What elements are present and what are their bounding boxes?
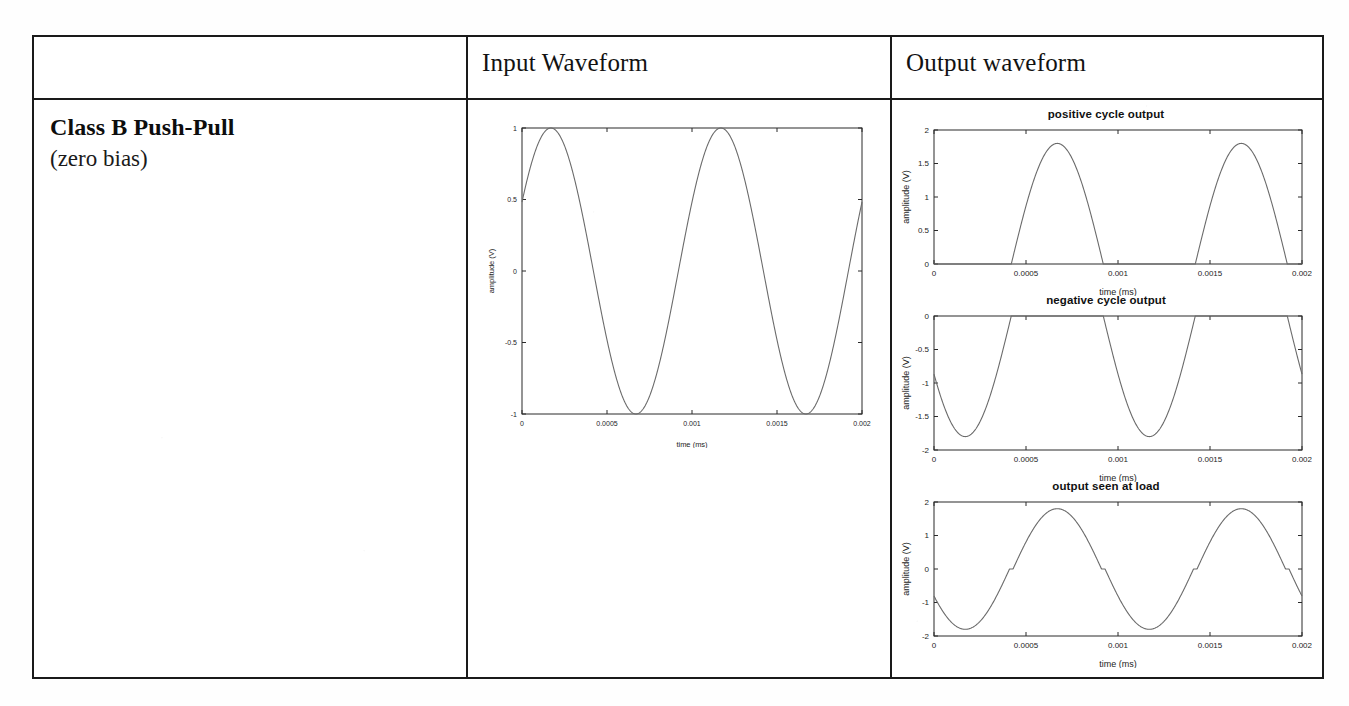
svg-text:0.002: 0.002 xyxy=(1292,455,1312,464)
svg-text:1: 1 xyxy=(925,193,930,202)
svg-text:0: 0 xyxy=(932,455,937,464)
svg-text:-0.5: -0.5 xyxy=(505,339,517,346)
input-plot-svg: 00.00050.0010.00150.002-1-0.500.51time (… xyxy=(484,118,874,448)
load-output-svg: 00.00050.0010.00150.002-2-1012time (ms)a… xyxy=(900,496,1312,668)
table-header-row: Input Waveform Output waveform xyxy=(33,36,1323,99)
input-waveform-cell: 00.00050.0010.00150.002-1-0.500.51time (… xyxy=(467,99,891,678)
svg-text:0.0005: 0.0005 xyxy=(1014,455,1039,464)
svg-text:2: 2 xyxy=(925,498,930,507)
svg-text:0.0015: 0.0015 xyxy=(766,420,788,427)
negative-cycle-title: negative cycle output xyxy=(900,294,1312,306)
amplifier-class-cell: Class B Push-Pull (zero bias) xyxy=(33,99,467,678)
svg-text:-1.5: -1.5 xyxy=(915,412,929,421)
positive-cycle-svg: 00.00050.0010.00150.00200.511.52time (ms… xyxy=(900,124,1312,296)
svg-text:1: 1 xyxy=(513,125,517,132)
svg-text:0.5: 0.5 xyxy=(918,226,930,235)
svg-text:0.002: 0.002 xyxy=(1292,269,1312,278)
svg-text:0.5: 0.5 xyxy=(507,196,517,203)
svg-text:0.001: 0.001 xyxy=(1108,269,1129,278)
svg-text:0: 0 xyxy=(925,565,930,574)
svg-text:0: 0 xyxy=(932,641,937,650)
svg-text:-1: -1 xyxy=(511,411,517,418)
load-output-title: output seen at load xyxy=(900,480,1312,492)
header-cell-blank xyxy=(33,36,467,99)
header-cell-output: Output waveform xyxy=(891,36,1323,99)
svg-text:amplitude (V): amplitude (V) xyxy=(487,248,496,293)
document-page: Input Waveform Output waveform Class B P… xyxy=(0,0,1349,706)
svg-text:0.001: 0.001 xyxy=(1108,641,1129,650)
svg-text:0.0015: 0.0015 xyxy=(1198,269,1223,278)
svg-text:-1: -1 xyxy=(922,379,930,388)
amplifier-class-title: Class B Push-Pull xyxy=(50,114,234,141)
svg-text:0.002: 0.002 xyxy=(1292,641,1312,650)
svg-text:-2: -2 xyxy=(922,446,930,455)
svg-text:time (ms): time (ms) xyxy=(1099,659,1137,668)
positive-cycle-plot: positive cycle output 00.00050.0010.0015… xyxy=(900,108,1312,296)
negative-cycle-plot: negative cycle output 00.00050.0010.0015… xyxy=(900,294,1312,482)
header-label-output: Output waveform xyxy=(906,49,1086,77)
svg-text:0: 0 xyxy=(513,268,517,275)
table-body-row: Class B Push-Pull (zero bias) 00.00050.0… xyxy=(33,99,1323,678)
header-label-input: Input Waveform xyxy=(482,49,648,77)
svg-text:0.001: 0.001 xyxy=(683,420,701,427)
amplifier-class-subtitle: (zero bias) xyxy=(50,146,148,172)
svg-text:0: 0 xyxy=(520,420,524,427)
comparison-table: Input Waveform Output waveform Class B P… xyxy=(32,35,1324,679)
load-output-plot: output seen at load 00.00050.0010.00150.… xyxy=(900,480,1312,668)
svg-text:0.0015: 0.0015 xyxy=(1198,455,1223,464)
svg-text:amplitude (V): amplitude (V) xyxy=(901,170,911,224)
svg-text:0.0005: 0.0005 xyxy=(1014,641,1039,650)
svg-text:time (ms): time (ms) xyxy=(676,440,708,448)
svg-text:0: 0 xyxy=(925,260,930,269)
svg-text:2: 2 xyxy=(925,126,930,135)
svg-text:-0.5: -0.5 xyxy=(915,345,929,354)
svg-text:0.0005: 0.0005 xyxy=(596,420,618,427)
svg-text:0: 0 xyxy=(925,312,930,321)
negative-cycle-svg: 00.00050.0010.00150.002-2-1.5-1-0.50time… xyxy=(900,310,1312,482)
svg-text:0.0005: 0.0005 xyxy=(1014,269,1039,278)
svg-text:amplitude (V): amplitude (V) xyxy=(901,356,911,410)
output-waveform-cell: positive cycle output 00.00050.0010.0015… xyxy=(891,99,1323,678)
header-cell-input: Input Waveform xyxy=(467,36,891,99)
svg-text:-1: -1 xyxy=(922,598,930,607)
svg-text:amplitude (V): amplitude (V) xyxy=(901,542,911,596)
svg-text:0: 0 xyxy=(932,269,937,278)
svg-text:-2: -2 xyxy=(922,632,930,641)
svg-text:0.002: 0.002 xyxy=(853,420,871,427)
svg-text:1.5: 1.5 xyxy=(918,159,930,168)
svg-text:1: 1 xyxy=(925,531,930,540)
input-waveform-plot: 00.00050.0010.00150.002-1-0.500.51time (… xyxy=(484,118,874,448)
svg-text:0.001: 0.001 xyxy=(1108,455,1129,464)
svg-text:0.0015: 0.0015 xyxy=(1198,641,1223,650)
positive-cycle-title: positive cycle output xyxy=(900,108,1312,120)
